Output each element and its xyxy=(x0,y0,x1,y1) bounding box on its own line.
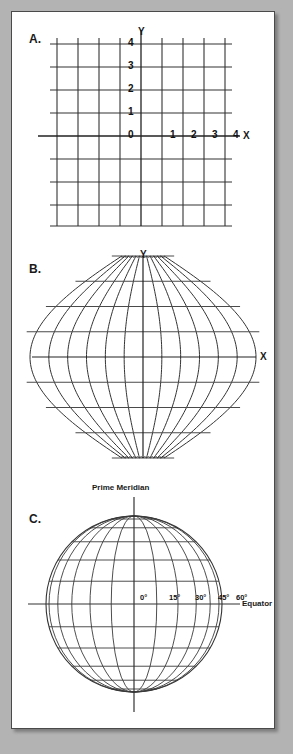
origin-label: 0 xyxy=(128,129,134,140)
sinusoidal-projection-svg xyxy=(12,244,276,469)
longitude-label-30: 30° xyxy=(195,593,206,602)
panel-sinusoidal-projection: B. Y X xyxy=(12,244,276,469)
y-tick-3: 3 xyxy=(128,60,134,71)
panel-a-y-axis-label: Y xyxy=(138,26,145,37)
longitude-label-0: 0° xyxy=(140,593,147,602)
panel-b-x-axis-label: X xyxy=(260,351,267,362)
panel-b-y-axis-label: Y xyxy=(140,249,147,260)
prime-meridian-label: Prime Meridian xyxy=(92,483,149,492)
longitude-label-45: 45° xyxy=(218,593,229,602)
y-tick-2: 2 xyxy=(128,83,134,94)
cartesian-grid-svg xyxy=(12,12,276,244)
x-tick-4: 4 xyxy=(233,129,239,140)
panel-a-x-axis-label: X xyxy=(243,130,250,141)
panel-cartesian-grid: A. xyxy=(12,12,276,244)
y-tick-1: 1 xyxy=(128,106,134,117)
panel-globe-graticule: C. Prime Meridian Equator 0° 15° 30° 45°… xyxy=(12,469,276,730)
x-tick-3: 3 xyxy=(212,129,218,140)
x-tick-2: 2 xyxy=(191,129,197,140)
longitude-label-60: 60° xyxy=(236,593,247,602)
x-tick-1: 1 xyxy=(170,129,176,140)
longitude-label-15: 15° xyxy=(169,593,180,602)
y-tick-4: 4 xyxy=(128,37,134,48)
figure-page: A. xyxy=(11,11,275,729)
